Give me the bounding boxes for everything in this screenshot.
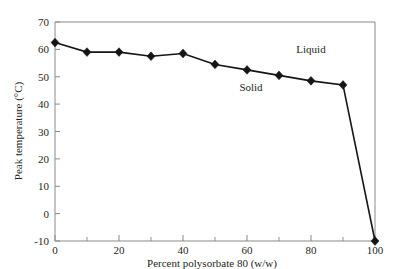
data-point-marker <box>83 48 91 57</box>
data-point-marker <box>275 71 283 80</box>
y-tick-label: 30 <box>38 126 50 138</box>
data-point-marker <box>115 48 123 57</box>
data-point-marker <box>243 66 251 75</box>
y-axis-ticks <box>55 22 60 241</box>
data-point-marker <box>307 76 315 85</box>
x-tick-label: 20 <box>114 244 126 256</box>
data-point-marker <box>147 52 155 61</box>
x-tick-label: 100 <box>367 244 384 256</box>
y-tick-label: 10 <box>38 180 50 192</box>
chart-figure: 70 60 50 40 30 20 10 0 -10 <box>0 0 398 269</box>
data-point-marker <box>211 60 219 69</box>
data-series-peak-temperature <box>51 38 379 245</box>
y-tick-label: 20 <box>38 153 50 165</box>
x-axis-title: Percent polysorbate 80 (w/w) <box>147 257 277 269</box>
x-tick-label: 40 <box>178 244 190 256</box>
y-axis-title: Peak temperature (°C) <box>12 81 25 180</box>
y-tick-label: 40 <box>38 98 50 110</box>
y-tick-label: -10 <box>34 235 49 247</box>
data-point-marker <box>339 81 347 90</box>
x-axis-tick-labels: 0 20 40 60 80 100 <box>52 244 384 256</box>
x-tick-label: 60 <box>242 244 254 256</box>
y-tick-label: 60 <box>38 43 50 55</box>
y-tick-label: 0 <box>44 208 50 220</box>
plot-frame <box>55 22 375 241</box>
data-point-marker <box>51 38 59 47</box>
annotation-liquid: Liquid <box>296 43 326 55</box>
data-point-marker <box>179 49 187 58</box>
y-axis-tick-labels: 70 60 50 40 30 20 10 0 -10 <box>34 16 49 247</box>
peak-temperature-line-chart: 70 60 50 40 30 20 10 0 -10 <box>0 0 398 269</box>
x-tick-label: 80 <box>306 244 318 256</box>
y-tick-label: 50 <box>38 71 50 83</box>
annotation-solid: Solid <box>239 81 263 93</box>
y-tick-label: 70 <box>38 16 50 28</box>
data-point-markers <box>51 38 379 245</box>
x-tick-label: 0 <box>52 244 58 256</box>
x-axis-minor-ticks <box>87 237 343 241</box>
